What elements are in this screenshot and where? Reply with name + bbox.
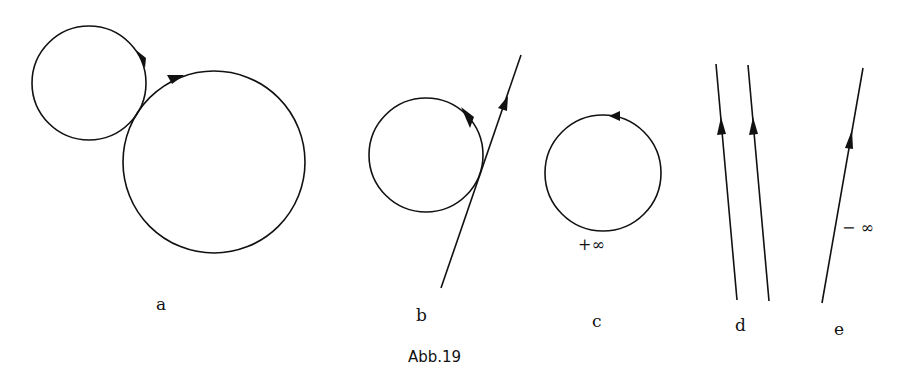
- panel-label-d: d: [735, 315, 746, 335]
- panel-label-c: c: [592, 311, 602, 331]
- panel-a: a: [32, 26, 305, 314]
- panel-d: d: [716, 64, 769, 335]
- arrow-icon: [461, 107, 474, 128]
- arrow-icon: [498, 96, 508, 111]
- large-circle: [123, 71, 305, 253]
- panel-label-a: a: [156, 294, 166, 314]
- line: [441, 55, 521, 288]
- panel-label-e: e: [834, 319, 844, 339]
- panel-e: − ∞ e: [822, 68, 874, 339]
- annotation-plus-infinity: +∞: [578, 235, 605, 254]
- arrow-icon: [717, 117, 726, 135]
- arrow-icon: [845, 130, 853, 149]
- panel-c: +∞ c: [545, 111, 661, 331]
- arrow-icon: [749, 117, 758, 135]
- figure-abb-19: a b +∞ c d − ∞ e Abb.19: [0, 0, 903, 373]
- circle: [545, 115, 661, 231]
- annotation-minus-infinity: − ∞: [842, 218, 874, 237]
- arrow-icon: [136, 50, 146, 68]
- line-2: [748, 65, 769, 301]
- small-circle: [32, 26, 146, 140]
- figure-caption: Abb.19: [408, 348, 461, 366]
- line: [822, 68, 863, 303]
- panel-b: b: [369, 55, 521, 325]
- line-1: [716, 64, 737, 300]
- panel-label-b: b: [416, 305, 427, 325]
- arrow-icon: [609, 111, 620, 121]
